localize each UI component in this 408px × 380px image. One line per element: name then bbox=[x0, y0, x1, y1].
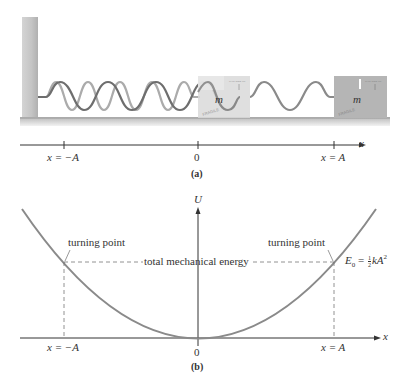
energy-formula: E0 = 12kA2 bbox=[345, 253, 387, 269]
diagram-canvas: m m FRAGILE FRAGILE THIS SIDE UP THIS SI… bbox=[0, 0, 408, 380]
axis-b-tick-pos-A: x = A bbox=[321, 341, 345, 353]
formula-eq: = bbox=[355, 254, 367, 266]
axis-b-tick-neg-A: x = −A bbox=[47, 341, 79, 353]
axis-a-x-label: x bbox=[359, 137, 364, 149]
formula-den: 2 bbox=[368, 262, 371, 268]
u-axis-label: U bbox=[194, 193, 202, 205]
axis-a bbox=[20, 141, 366, 149]
axis-b-tick-zero: 0 bbox=[194, 346, 200, 358]
formula-fraction: 12 bbox=[368, 255, 371, 268]
wall bbox=[22, 17, 38, 118]
caption-a: (a) bbox=[191, 168, 203, 179]
turning-point-label-left: turning point bbox=[68, 236, 125, 248]
axis-a-tick-pos-A: x = A bbox=[321, 151, 345, 163]
this-side-up-1: THIS SIDE UP bbox=[229, 80, 246, 83]
u-axis bbox=[196, 207, 201, 346]
turning-point-label-right: turning point bbox=[268, 236, 325, 248]
block-mass-label-2: m bbox=[353, 93, 361, 105]
caption-b: (b) bbox=[191, 361, 203, 372]
block-mass-label-1: m bbox=[215, 93, 223, 105]
formula-sup: 2 bbox=[384, 253, 388, 261]
formula-rest: kA bbox=[372, 254, 384, 266]
x-axis-b-label: x bbox=[383, 330, 388, 342]
axis-a-tick-neg-A: x = −A bbox=[47, 151, 79, 163]
formula-num: 1 bbox=[368, 255, 371, 262]
total-energy-label: total mechanical energy bbox=[144, 255, 249, 267]
formula-E: E bbox=[345, 254, 352, 266]
spring-stretched bbox=[250, 82, 334, 110]
this-side-up-2: THIS SIDE UP bbox=[365, 80, 382, 83]
potential-energy-curve bbox=[22, 209, 376, 339]
axis-a-tick-zero: 0 bbox=[194, 151, 200, 163]
